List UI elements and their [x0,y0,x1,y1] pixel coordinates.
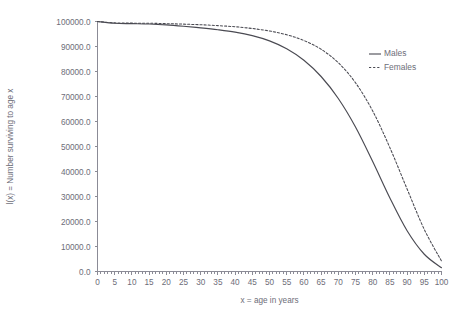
x-tick-label: 10 [127,278,137,287]
x-tick-label: 85 [385,278,395,287]
y-tick-label: 50000.0 [61,143,91,152]
chart-legend: MalesFemales [369,48,416,72]
y-tick-label: 100000.0 [56,18,91,27]
x-axis-tick-marks [98,272,442,276]
x-tick-label: 65 [317,278,327,287]
x-axis-tick-labels: 0510152025303540455055606570758085909510… [95,278,449,287]
x-tick-label: 20 [162,278,172,287]
x-tick-label: 90 [403,278,413,287]
x-tick-label: 100 [435,278,449,287]
x-tick-label: 30 [196,278,206,287]
series-line-males [98,22,442,268]
y-tick-label: 60000.0 [61,118,91,127]
x-tick-label: 80 [368,278,378,287]
y-tick-label: 20000.0 [61,218,91,227]
x-tick-label: 35 [213,278,223,287]
x-tick-label: 5 [112,278,117,287]
x-tick-label: 0 [95,278,100,287]
y-axis-tick-labels: 0.010000.020000.030000.040000.050000.060… [56,18,91,277]
y-tick-label: 30000.0 [61,193,91,202]
survival-curve-chart: 0.010000.020000.030000.040000.050000.060… [0,0,457,318]
x-tick-label: 60 [299,278,309,287]
legend-label-males: Males [384,48,406,58]
x-tick-label: 70 [334,278,344,287]
chart-canvas: 0.010000.020000.030000.040000.050000.060… [0,0,457,318]
data-series-group [98,22,442,268]
y-axis-title: l(x) = Number surviving to age x [6,89,15,205]
legend-label-females: Females [384,62,416,72]
x-tick-label: 45 [248,278,258,287]
y-tick-label: 90000.0 [61,43,91,52]
x-tick-label: 15 [145,278,155,287]
x-tick-label: 40 [231,278,241,287]
y-tick-label: 10000.0 [61,243,91,252]
y-tick-label: 40000.0 [61,168,91,177]
x-tick-label: 50 [265,278,275,287]
y-tick-label: 70000.0 [61,93,91,102]
x-tick-label: 75 [351,278,361,287]
x-axis-title: x = age in years [240,296,298,305]
x-tick-label: 95 [420,278,430,287]
y-tick-label: 0.0 [79,268,91,277]
y-tick-label: 80000.0 [61,68,91,77]
x-tick-label: 25 [179,278,189,287]
x-tick-label: 55 [282,278,292,287]
